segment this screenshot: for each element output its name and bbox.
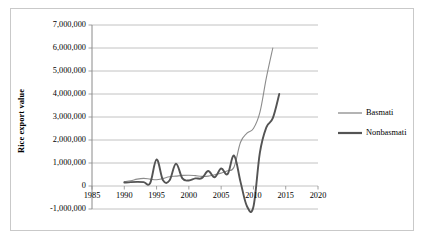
y-tick-label-3: 2,000,000 [28, 135, 86, 144]
legend-label-basmati: Basmati [366, 108, 393, 117]
y-tick-label-2: 1,000,000 [28, 158, 86, 167]
y-tick-label-7: 6,000,000 [28, 43, 86, 52]
chart-figure: Rice export value -1,000,00001,000,0002,… [0, 0, 428, 247]
x-tick-label-7: 2020 [298, 191, 338, 200]
y-tick-label-5: 4,000,000 [28, 89, 86, 98]
legend-label-nonbasmati: Nonbasmati [366, 128, 406, 137]
legend-swatches-group [338, 113, 362, 133]
y-tick-label-4: 3,000,000 [28, 112, 86, 121]
series-group [124, 48, 279, 212]
y-tick-label-1: 0 [28, 181, 86, 190]
y-tick-label-0: -1,000,000 [28, 204, 86, 213]
y-tick-label-6: 5,000,000 [28, 66, 86, 75]
y-tick-label-8: 7,000,000 [28, 20, 86, 29]
series-line-basmati [124, 48, 273, 182]
